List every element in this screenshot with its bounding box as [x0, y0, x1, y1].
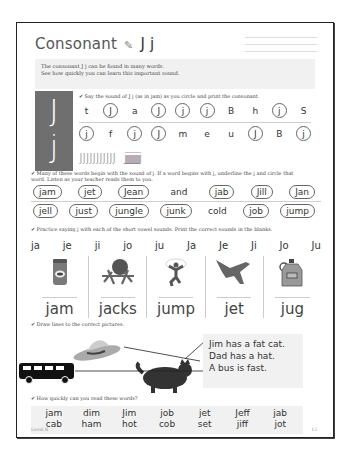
name-lines [245, 37, 317, 58]
picture-jump[interactable]: jump [147, 256, 205, 318]
jug-icon [278, 258, 306, 288]
letter-row-2: jfjJmeuJBj [79, 126, 311, 141]
hat-icon [72, 340, 121, 364]
vowel-sound: ji [95, 240, 101, 251]
reading-word: dim [73, 408, 111, 419]
circled-word[interactable]: Jean [118, 185, 149, 199]
reading-row-2: cabhamhotcobsetjiffjot [35, 419, 299, 430]
circled-letter[interactable]: J [248, 126, 263, 141]
picture-jacks[interactable]: jacks [89, 256, 147, 318]
vowel-sound: Ju [312, 240, 321, 251]
jet-plane-icon [214, 258, 254, 288]
reading-words-box: jamdimJimjobjetJeffjab cabhamhotcobsetji… [31, 406, 303, 434]
trace-uppercase[interactable]: JJJJJJJJJJJ [79, 150, 116, 165]
divider [31, 201, 321, 202]
trace-lowercase[interactable]: jjjjjjjjjjjjjjjj [124, 150, 140, 165]
circled-word[interactable]: just [69, 204, 97, 218]
circled-letter[interactable]: j [127, 126, 142, 141]
circled-word[interactable]: jungle [109, 204, 149, 218]
letter[interactable]: f [103, 129, 118, 139]
letter[interactable]: B [272, 129, 287, 139]
section3-instruction: ✔ Practice saying j with each of the sho… [31, 226, 321, 232]
word-row-1: jamjetJeanandjabJillJan [33, 185, 315, 199]
picture-jug[interactable]: jug [264, 256, 321, 318]
letter[interactable]: m [175, 129, 190, 139]
picture-jam[interactable]: jam [31, 256, 89, 318]
letter[interactable]: h [248, 106, 263, 116]
vowel-sound: ju [155, 240, 164, 251]
letter[interactable]: B [224, 106, 239, 116]
reading-word: jot [261, 419, 299, 430]
circled-word[interactable]: junk [160, 204, 191, 218]
reading-row-1: jamdimJimjobjetJeffjab [35, 408, 299, 419]
vowel-sound: Jo [280, 240, 289, 251]
title-text: Consonant [35, 35, 117, 53]
vowel-sound: Je [219, 240, 228, 251]
letter[interactable]: e [200, 129, 215, 139]
big-letter-upper: J [35, 93, 73, 128]
bus-icon [19, 363, 74, 384]
section5-instruction: ✔ How quickly can you read these words? [31, 395, 231, 401]
title-letters: J j [140, 35, 154, 53]
circled-letter[interactable]: J [151, 103, 166, 118]
picture-label: jacks [89, 300, 146, 318]
circled-letter[interactable]: j [175, 103, 190, 118]
pencil-icon: ✎ [124, 39, 133, 52]
circled-letter[interactable]: j [200, 103, 215, 118]
word[interactable]: cold [203, 205, 232, 217]
cat-icon [138, 359, 192, 393]
instruction-line: word. Listen as your teacher reads them … [31, 176, 321, 182]
letter[interactable]: a [127, 106, 142, 116]
reading-word: jiff [224, 419, 262, 430]
tracing-row[interactable]: JJJJJJJJJJJ jjjjjjjjjjjjjjjj [79, 145, 319, 165]
reading-word: Jim [110, 408, 148, 419]
circled-word[interactable]: Jill [251, 185, 273, 199]
circled-letter[interactable]: J [103, 103, 118, 118]
letter-row-1: tJaJjjBhjS [79, 103, 311, 118]
sentence: Jim has a fat cat. [209, 338, 297, 350]
circled-word[interactable]: jell [33, 204, 58, 218]
sentences-box: Jim has a fat cat. Dad has a hat. A bus … [203, 334, 303, 388]
circled-word[interactable]: jab [209, 185, 235, 199]
reading-word: hot [110, 419, 148, 430]
circled-letter[interactable]: j [79, 126, 94, 141]
jam-jar-icon [51, 258, 69, 286]
letter[interactable]: S [296, 106, 311, 116]
circled-word[interactable]: jet [78, 185, 102, 199]
reading-word: jab [261, 408, 299, 419]
circled-word[interactable]: jam [33, 185, 62, 199]
circled-letter[interactable]: J [151, 126, 166, 141]
reading-word: jet [186, 408, 224, 419]
intro-line-2: See how quickly you can learn this impor… [41, 70, 309, 77]
reading-word: job [148, 408, 186, 419]
reading-word: Jeff [224, 408, 262, 419]
reading-word: set [186, 419, 224, 430]
big-letter-block: J j [35, 91, 73, 171]
section1-instruction: ✔ Say the sound of J j (as in jam) as yo… [79, 93, 319, 99]
picture-label: jam [31, 300, 88, 318]
jacks-icon [98, 258, 138, 288]
intro-line-1: The consonant J j can be found in many w… [41, 63, 309, 70]
circled-letter[interactable]: j [296, 126, 311, 141]
sentence: A bus is fast. [209, 362, 297, 374]
picture-jet[interactable]: jet [206, 256, 264, 318]
picture-strip: jam jacks jump [31, 256, 321, 318]
vowel-sound: Ja [187, 240, 196, 251]
word[interactable]: and [166, 186, 193, 198]
letter[interactable]: t [79, 106, 94, 116]
vowel-sound: je [63, 240, 72, 251]
letter[interactable]: u [224, 129, 239, 139]
sentence: Dad has a hat. [209, 350, 297, 362]
picture-label: jug [264, 300, 321, 318]
page-title: Consonant ✎ J j [35, 35, 154, 53]
reading-word: cob [148, 419, 186, 430]
vowel-sounds-row: jajejijojuJaJeJiJoJu [31, 240, 321, 251]
circled-letter[interactable]: j [272, 103, 287, 118]
circled-word[interactable]: Jan [289, 185, 315, 199]
section2-instruction: ✔ Many of these words begin with the sou… [31, 170, 321, 182]
vowel-sound: jo [123, 240, 132, 251]
circled-word[interactable]: jump [280, 204, 315, 218]
vowel-sound: ja [31, 240, 40, 251]
circled-word[interactable]: job [243, 204, 269, 218]
picture-label: jump [147, 300, 204, 318]
